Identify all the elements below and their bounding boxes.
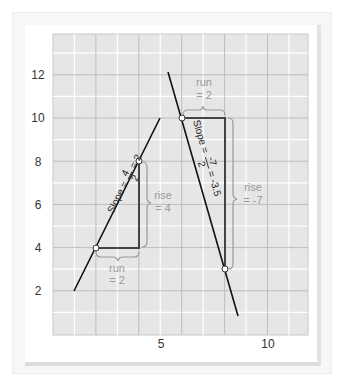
right-rise-value: = -7	[243, 194, 262, 206]
right-point-8-3	[222, 266, 228, 272]
x-tick-5: 5	[158, 337, 165, 351]
y-tick-4: 4	[35, 241, 42, 255]
y-tick-12: 12	[31, 68, 45, 82]
slope-chart: 12 10 8 6 4 2 5 10 rise = 4 run = 2 Slop…	[0, 0, 339, 385]
left-rise-value: = 4	[155, 202, 171, 214]
left-rise-label: rise	[154, 189, 172, 201]
left-point-2-4	[93, 245, 99, 251]
x-tick-10: 10	[261, 337, 275, 351]
right-point-6-10	[179, 115, 185, 121]
left-run-value: = 2	[109, 274, 125, 286]
y-tick-10: 10	[31, 111, 45, 125]
right-run-label: run	[196, 76, 212, 88]
y-tick-2: 2	[35, 284, 42, 298]
y-tick-6: 6	[35, 198, 42, 212]
right-rise-label: rise	[244, 181, 262, 193]
y-axis-labels: 12 10 8 6 4 2	[31, 68, 45, 298]
left-run-label: run	[109, 262, 125, 274]
right-run-value: = 2	[196, 89, 212, 101]
y-tick-8: 8	[35, 155, 42, 169]
x-axis-labels: 5 10	[158, 337, 275, 351]
plot-area	[53, 34, 308, 335]
